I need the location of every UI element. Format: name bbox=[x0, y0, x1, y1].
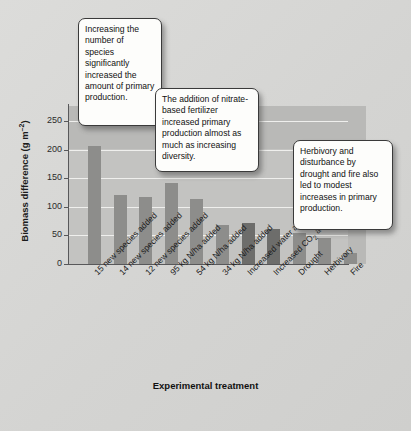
x-axis-title: Experimental treatment bbox=[0, 380, 411, 391]
y-axis-tick-mark bbox=[64, 121, 68, 122]
y-axis-tick-mark bbox=[64, 264, 68, 265]
x-axis-tick-label: Fire bbox=[348, 260, 365, 277]
y-axis-tick-mark bbox=[64, 178, 68, 179]
callout-box-diversity: Increasing the number of species signifi… bbox=[78, 18, 162, 126]
figure-canvas: 250200150100500 Biomass difference (g m–… bbox=[0, 0, 411, 431]
y-axis-tick-mark bbox=[64, 207, 68, 208]
y-axis-tick-mark bbox=[64, 235, 68, 236]
y-axis-tick-mark bbox=[64, 150, 68, 151]
callout-box-fertilizer: The addition of nitrate-based fertilizer… bbox=[155, 88, 259, 172]
callout-box-disturbance: Herbivory and disturbance by drought and… bbox=[293, 140, 393, 230]
